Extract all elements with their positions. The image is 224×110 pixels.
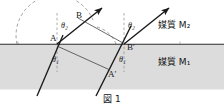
wavefront-upper-segment (78, 18, 123, 43)
medium-1-region (0, 45, 224, 90)
point-label-a: A (50, 34, 57, 43)
angle-label-theta1-right: θ₁ (119, 56, 126, 64)
medium-label-lower: 媒質 M₁ (158, 58, 190, 67)
angle-label-theta2-left: θ₂ (61, 22, 68, 30)
point-label-b: B (76, 11, 82, 20)
figure-caption: 図 1 (0, 95, 224, 104)
figure-container: A B B′ A′ θ₂ θ₂ θ₁ θ₁ 媒質 M₂ 媒質 M₁ 図 1 (0, 0, 224, 110)
point-label-b-prime: B′ (127, 43, 135, 52)
small-arc-dashed (97, 27, 116, 44)
point-label-a-prime: A′ (108, 70, 116, 79)
angle-label-theta1-left: θ₁ (52, 56, 59, 64)
medium-label-upper: 媒質 M₂ (158, 21, 190, 30)
angle-label-theta2-right: θ₂ (128, 22, 135, 30)
